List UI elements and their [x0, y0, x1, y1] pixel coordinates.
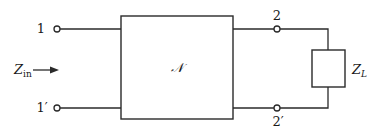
terminal-2: [274, 26, 280, 32]
load-impedance-box: [312, 50, 345, 87]
two-port-circuit-diagram: 𝒩 1 1′ Zin 2 2′ ZL: [0, 0, 380, 134]
load-subscript: L: [360, 69, 367, 79]
arrow-right-icon: [33, 67, 59, 74]
load-label: ZL: [351, 62, 367, 79]
zin-subscript: in: [23, 69, 32, 79]
terminal-1-prime: [54, 105, 60, 111]
wire-to-load-top: [280, 29, 328, 50]
terminal-2-prime-label: 2′: [272, 114, 283, 129]
terminal-1-label: 1: [37, 21, 45, 36]
terminal-1-prime-label: 1′: [36, 100, 47, 115]
terminal-2-label: 2: [273, 8, 281, 23]
terminal-1: [54, 26, 60, 32]
terminal-2-prime: [274, 105, 280, 111]
zin-label: Zin: [13, 62, 32, 79]
wire-to-load-bottom: [280, 87, 328, 108]
